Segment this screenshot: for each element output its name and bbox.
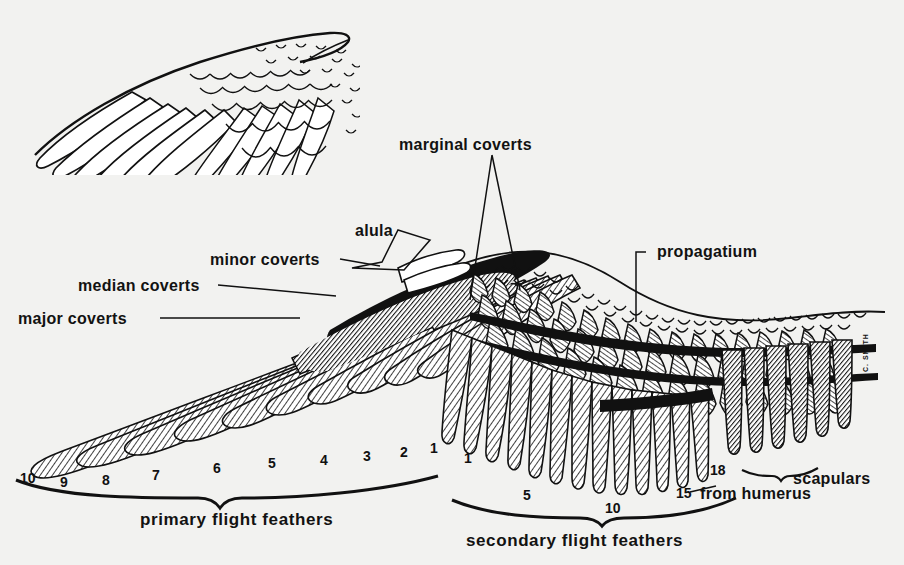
leader-minor-coverts <box>340 259 380 266</box>
label-marginal-coverts: marginal coverts <box>399 136 532 154</box>
secondary-number-15: 15 <box>676 485 692 501</box>
inset-wing-outline <box>35 33 362 192</box>
secondary-flight-feathers-brace <box>452 498 736 526</box>
label-primary-flight-feathers: primary flight feathers <box>140 510 333 530</box>
leader-median-coverts <box>218 285 336 296</box>
secondary-number-1: 1 <box>464 450 472 466</box>
primary-number-2: 2 <box>400 444 408 460</box>
primary-flight-feathers-brace <box>16 476 438 508</box>
primary-number-4: 4 <box>320 452 328 468</box>
artist-signature: C. SMITH <box>862 333 869 372</box>
primary-number-8: 8 <box>102 472 110 488</box>
primary-number-10: 10 <box>20 470 36 486</box>
primary-number-3: 3 <box>363 448 371 464</box>
label-secondary-flight-feathers: secondary flight feathers <box>466 531 683 551</box>
wing-anatomy-figure: major coverts median coverts minor cover… <box>0 0 904 565</box>
label-propagatium: propagatium <box>657 243 757 261</box>
primary-number-7: 7 <box>152 467 160 483</box>
primary-number-9: 9 <box>60 474 68 490</box>
label-from-humerus: from humerus <box>700 485 811 503</box>
label-minor-coverts: minor coverts <box>210 251 320 269</box>
primary-number-1: 1 <box>430 440 438 456</box>
label-alula: alula <box>355 222 393 240</box>
primary-number-5: 5 <box>268 455 276 471</box>
label-major-coverts: major coverts <box>18 310 127 328</box>
secondary-number-18: 18 <box>710 462 726 478</box>
primary-number-6: 6 <box>213 460 221 476</box>
secondary-number-5: 5 <box>523 487 531 503</box>
label-median-coverts: median coverts <box>78 277 200 295</box>
secondary-number-10: 10 <box>605 500 621 516</box>
